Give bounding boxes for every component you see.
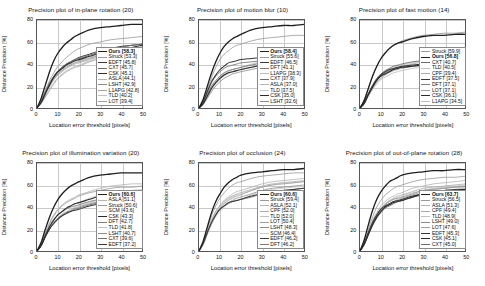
y-tick-label: 40 — [27, 204, 33, 210]
y-tick-label: 20 — [350, 227, 356, 233]
legend-color-swatch — [421, 68, 430, 69]
legend-item: LSHT [32.6] — [260, 99, 302, 105]
legend-color-swatch — [98, 200, 107, 201]
x-tick-label: 0 — [358, 111, 361, 117]
y-tick-label: 40 — [189, 61, 195, 67]
legend-color-swatch — [260, 62, 269, 63]
y-axis-label: Distance Precision [%] — [161, 162, 171, 252]
y-axis-label-text: Distance Precision [%] — [163, 179, 169, 235]
y-tick-label: 0 — [30, 249, 33, 255]
legend-label: CXT [45.0] — [432, 242, 456, 247]
legend-color-swatch — [421, 238, 430, 239]
legend-color-swatch — [98, 95, 107, 96]
legend-color-swatch — [98, 233, 107, 234]
x-tick-label: 30 — [421, 254, 427, 260]
y-tick-label: 0 — [30, 106, 33, 112]
x-tick-label: 40 — [442, 254, 448, 260]
legend-color-swatch — [421, 51, 430, 52]
x-tick-label: 0 — [35, 111, 38, 117]
legend-color-swatch — [421, 101, 430, 102]
legend-color-swatch — [260, 211, 269, 212]
y-axis-label: Distance Precision [%] — [322, 162, 332, 252]
x-tick-label: 20 — [237, 111, 243, 117]
plot-panel: Precision plot of fast motion (14)Distan… — [323, 0, 485, 143]
x-tick-label: 0 — [196, 254, 199, 260]
legend-color-swatch — [421, 222, 430, 223]
legend: Ours [63.7]Struck [56.5]ASLA [51.3]CPF [… — [419, 190, 466, 250]
y-tick-label: 0 — [353, 106, 356, 112]
legend-color-swatch — [98, 194, 107, 195]
precision-plots-figure: Precision plot of in-plane rotation (20)… — [0, 0, 485, 286]
x-axis-label: Location error threshold [pixels] — [198, 265, 305, 271]
x-axis-label: Location error threshold [pixels] — [359, 122, 466, 128]
legend-item: DFT [46.2] — [260, 242, 302, 248]
y-tick-label: 60 — [27, 182, 33, 188]
legend: Struck [59.9]Ours [56.8]CXT [40.7]TLD [4… — [419, 47, 466, 107]
y-axis-label-text: Distance Precision [%] — [324, 179, 330, 235]
legend-color-swatch — [260, 194, 269, 195]
x-tick-label: 50 — [463, 254, 469, 260]
y-tick-label: 40 — [350, 61, 356, 67]
legend-color-swatch — [260, 51, 269, 52]
legend-color-swatch — [260, 101, 269, 102]
legend-color-swatch — [260, 222, 269, 223]
legend-label: EDFT [37.2] — [109, 242, 136, 247]
plot-panel: Precision plot of motion blur (10)Distan… — [162, 0, 324, 143]
legend-color-swatch — [260, 90, 269, 91]
legend-color-swatch — [421, 73, 430, 74]
legend-color-swatch — [260, 227, 269, 228]
x-tick-label: 40 — [119, 254, 125, 260]
legend-color-swatch — [260, 79, 269, 80]
legend-color-swatch — [260, 216, 269, 217]
plot-title: Precision plot of motion blur (10) — [162, 6, 324, 13]
y-tick-label: 20 — [189, 84, 195, 90]
legend-item: EDFT [37.2] — [98, 242, 140, 248]
y-tick-label: 80 — [350, 16, 356, 22]
y-axis-label-text: Distance Precision [%] — [163, 36, 169, 92]
plot-title: Precision plot of fast motion (14) — [323, 6, 485, 13]
y-tick-label: 20 — [189, 227, 195, 233]
x-tick-label: 20 — [76, 254, 82, 260]
legend-color-swatch — [98, 211, 107, 212]
y-tick-label: 60 — [27, 39, 33, 45]
legend-color-swatch — [98, 51, 107, 52]
x-tick-label: 50 — [140, 111, 146, 117]
legend: Ours [58.3]Struck [53.3]EDFT [45.8]CXT [… — [96, 47, 143, 107]
x-tick-label: 40 — [119, 111, 125, 117]
legend-color-swatch — [260, 95, 269, 96]
legend: Ours [60.6]ASLA [51.1]Struck [50.6]SCM [… — [96, 190, 143, 250]
legend-color-swatch — [260, 73, 269, 74]
legend-color-swatch — [421, 79, 430, 80]
y-tick-label: 40 — [189, 204, 195, 210]
x-axis-label: Location error threshold [pixels] — [359, 265, 466, 271]
legend-color-swatch — [421, 84, 430, 85]
y-tick-label: 60 — [350, 182, 356, 188]
legend-color-swatch — [98, 222, 107, 223]
x-tick-label: 50 — [302, 111, 308, 117]
y-tick-label: 40 — [350, 204, 356, 210]
legend-color-swatch — [98, 238, 107, 239]
legend-color-swatch — [98, 57, 107, 58]
x-tick-label: 50 — [463, 111, 469, 117]
y-tick-label: 0 — [353, 249, 356, 255]
legend-item: LOT [39.4] — [98, 99, 140, 105]
legend-color-swatch — [421, 200, 430, 201]
plot-title: Precision plot of occlusion (24) — [162, 149, 324, 156]
y-axis-label: Distance Precision [%] — [322, 19, 332, 109]
legend-color-swatch — [421, 57, 430, 58]
x-axis-label: Location error threshold [pixels] — [36, 265, 143, 271]
x-tick-label: 30 — [97, 254, 103, 260]
y-tick-label: 80 — [27, 159, 33, 165]
x-tick-label: 40 — [442, 111, 448, 117]
legend-color-swatch — [98, 244, 107, 245]
x-tick-label: 10 — [216, 111, 222, 117]
legend-color-swatch — [98, 68, 107, 69]
legend-color-swatch — [421, 205, 430, 206]
x-tick-label: 10 — [378, 111, 384, 117]
x-tick-label: 10 — [216, 254, 222, 260]
x-tick-label: 30 — [97, 111, 103, 117]
x-tick-label: 10 — [54, 254, 60, 260]
y-tick-label: 60 — [189, 182, 195, 188]
y-tick-label: 20 — [27, 84, 33, 90]
legend-color-swatch — [421, 62, 430, 63]
